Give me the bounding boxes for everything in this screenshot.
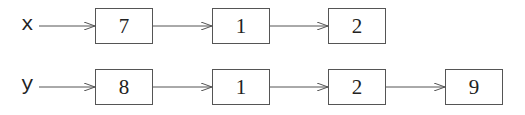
list-y-node-2: 1: [212, 69, 270, 105]
list-y-node-3: 2: [328, 69, 386, 105]
list-y-node-4: 9: [445, 69, 503, 105]
list-y-label: y: [21, 74, 34, 95]
list-x-node-1: 7: [95, 8, 153, 44]
list-x-node-3: 2: [328, 8, 386, 44]
list-x-label: x: [21, 14, 34, 35]
list-y-node-1: 8: [95, 69, 153, 105]
linked-list-diagram: x 7 1 2 y 8 1 2 9: [0, 0, 525, 115]
list-x-node-2: 1: [212, 8, 270, 44]
